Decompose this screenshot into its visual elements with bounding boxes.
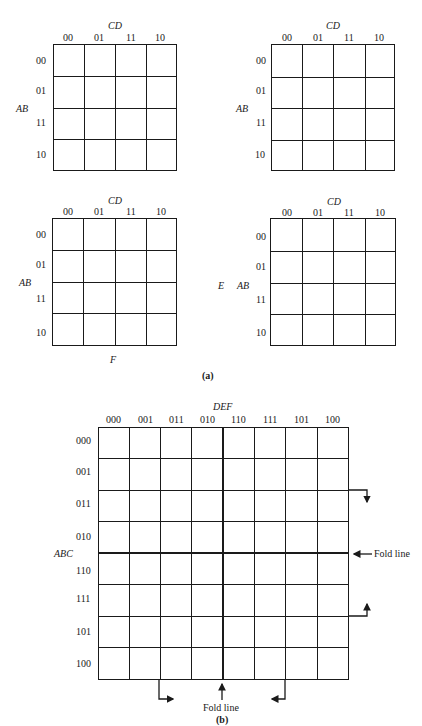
fold-arrow-right-icon (159, 680, 173, 699)
fold-line-label-bottom: Fold line (203, 703, 239, 713)
fold-line-label-right: Fold line (374, 549, 410, 559)
caption-b: (b) (216, 715, 228, 725)
fold-arrow-down-icon (349, 490, 367, 502)
fold-arrow-up-icon (349, 604, 367, 616)
fold-arrow-left-icon (272, 680, 285, 699)
fold-arrows (0, 0, 422, 726)
